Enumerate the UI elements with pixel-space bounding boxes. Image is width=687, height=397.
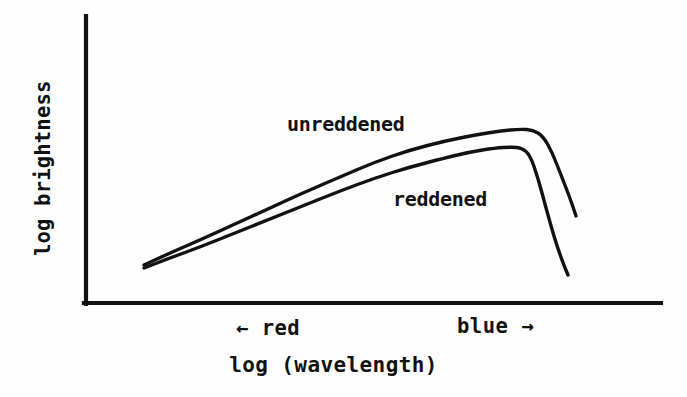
series-label-reddened: reddened — [393, 189, 487, 209]
x-axis-tick-blue: blue → — [457, 316, 534, 337]
x-axis-label: log (wavelength) — [0, 355, 687, 376]
series-line-reddened — [144, 147, 568, 275]
series-label-unreddened: unreddened — [287, 114, 404, 134]
data-series-group — [144, 129, 576, 275]
figure-root: log brightness unreddened reddened ← red… — [0, 0, 687, 397]
x-axis-tick-red: ← red — [236, 318, 300, 339]
plot-canvas — [0, 0, 687, 397]
axis-lines — [84, 16, 661, 304]
y-axis-label: log brightness — [33, 63, 54, 273]
